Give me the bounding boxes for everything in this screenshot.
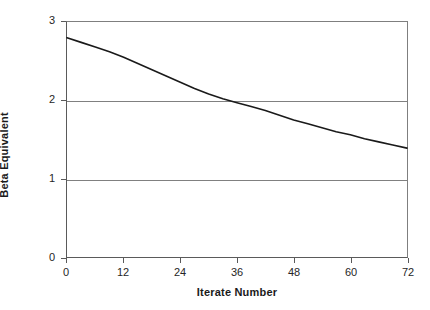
x-tick-label-12: 12 xyxy=(103,266,143,278)
x-tick-label-36: 36 xyxy=(217,266,257,278)
y-tick-mark-2 xyxy=(61,100,66,101)
x-tick-mark-48 xyxy=(294,258,295,263)
y-tick-mark-3 xyxy=(61,21,66,22)
x-tick-mark-0 xyxy=(66,258,67,263)
plot-area xyxy=(66,21,408,258)
chart-figure: Beta Equivalent 0123 0122436486072 Itera… xyxy=(0,0,430,310)
x-tick-mark-12 xyxy=(123,258,124,263)
x-tick-label-60: 60 xyxy=(331,266,371,278)
y-tick-label-1: 1 xyxy=(33,173,55,184)
y-tick-label-3: 3 xyxy=(33,15,55,26)
x-tick-label-48: 48 xyxy=(274,266,314,278)
x-tick-label-0: 0 xyxy=(46,266,86,278)
y-tick-label-2: 2 xyxy=(33,94,55,105)
x-tick-mark-72 xyxy=(408,258,409,263)
y-axis-title: Beta Equivalent xyxy=(0,0,34,310)
series-line-beta-equivalent xyxy=(67,22,407,257)
y-tick-label-0: 0 xyxy=(33,252,55,263)
x-tick-label-72: 72 xyxy=(388,266,428,278)
y-axis-title-text: Beta Equivalent xyxy=(0,112,36,198)
y-tick-mark-1 xyxy=(61,179,66,180)
x-tick-mark-24 xyxy=(180,258,181,263)
x-tick-mark-36 xyxy=(237,258,238,263)
x-tick-label-24: 24 xyxy=(160,266,200,278)
x-axis-title: Iterate Number xyxy=(66,286,408,298)
x-tick-mark-60 xyxy=(351,258,352,263)
